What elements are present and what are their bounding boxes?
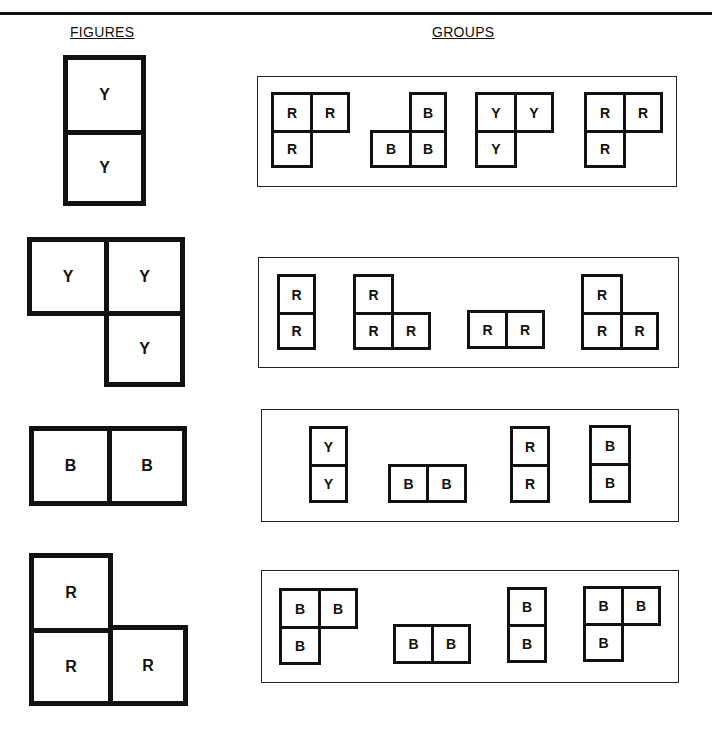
group-cell: B — [621, 586, 661, 626]
group-cell: Y — [514, 92, 554, 133]
figure-cell: Y — [104, 237, 185, 316]
group-cell: B — [279, 626, 321, 665]
figure-cell: Y — [104, 311, 185, 387]
group-cell: Y — [475, 130, 517, 168]
group-cell: B — [409, 130, 447, 168]
group-cell: R — [581, 312, 623, 350]
group-cell: R — [620, 312, 659, 350]
group-cell: B — [589, 463, 631, 503]
figures-heading: FIGURES — [70, 24, 134, 40]
figure-cell: R — [108, 625, 188, 706]
figure-cell: Y — [63, 130, 146, 206]
group-cell: R — [623, 92, 663, 133]
group-cell: R — [271, 130, 313, 168]
group-cell: B — [507, 587, 547, 627]
group-cell: B — [589, 425, 631, 466]
figure-cell: Y — [27, 237, 109, 316]
group-cell: R — [467, 310, 508, 349]
figure-cell: B — [107, 426, 187, 506]
group-cell: B — [583, 623, 624, 662]
group-cell: B — [370, 130, 412, 168]
group-cell: R — [510, 426, 550, 467]
group-cell: B — [426, 464, 467, 503]
group-cell: R — [277, 312, 316, 350]
group-cell: R — [277, 274, 316, 315]
group-cell: R — [353, 274, 394, 315]
group-cell: B — [431, 624, 471, 664]
group-cell: B — [388, 464, 429, 503]
group-cell: R — [584, 92, 626, 133]
group-cell: Y — [309, 464, 348, 503]
group-cell: B — [409, 92, 447, 133]
groups-heading: GROUPS — [432, 24, 494, 40]
figure-cell: Y — [63, 55, 146, 135]
group-cell: R — [510, 464, 550, 503]
figure-cell: B — [29, 426, 112, 506]
group-cell: B — [393, 624, 434, 664]
group-cell: R — [353, 312, 394, 350]
figure-cell: R — [29, 553, 113, 633]
group-cell: B — [318, 588, 358, 629]
group-cell: B — [583, 586, 624, 626]
group-cell: R — [584, 130, 626, 168]
group-cell: R — [391, 312, 431, 350]
group-cell: R — [271, 92, 313, 133]
group-cell: B — [507, 624, 547, 663]
group-cell: R — [310, 92, 350, 133]
header-rule — [0, 12, 712, 15]
group-cell: Y — [309, 426, 348, 467]
figure-cell: R — [29, 628, 113, 706]
group-cell: Y — [475, 92, 517, 133]
group-cell: B — [279, 588, 321, 629]
group-cell: R — [505, 310, 545, 349]
group-cell: R — [581, 274, 623, 315]
